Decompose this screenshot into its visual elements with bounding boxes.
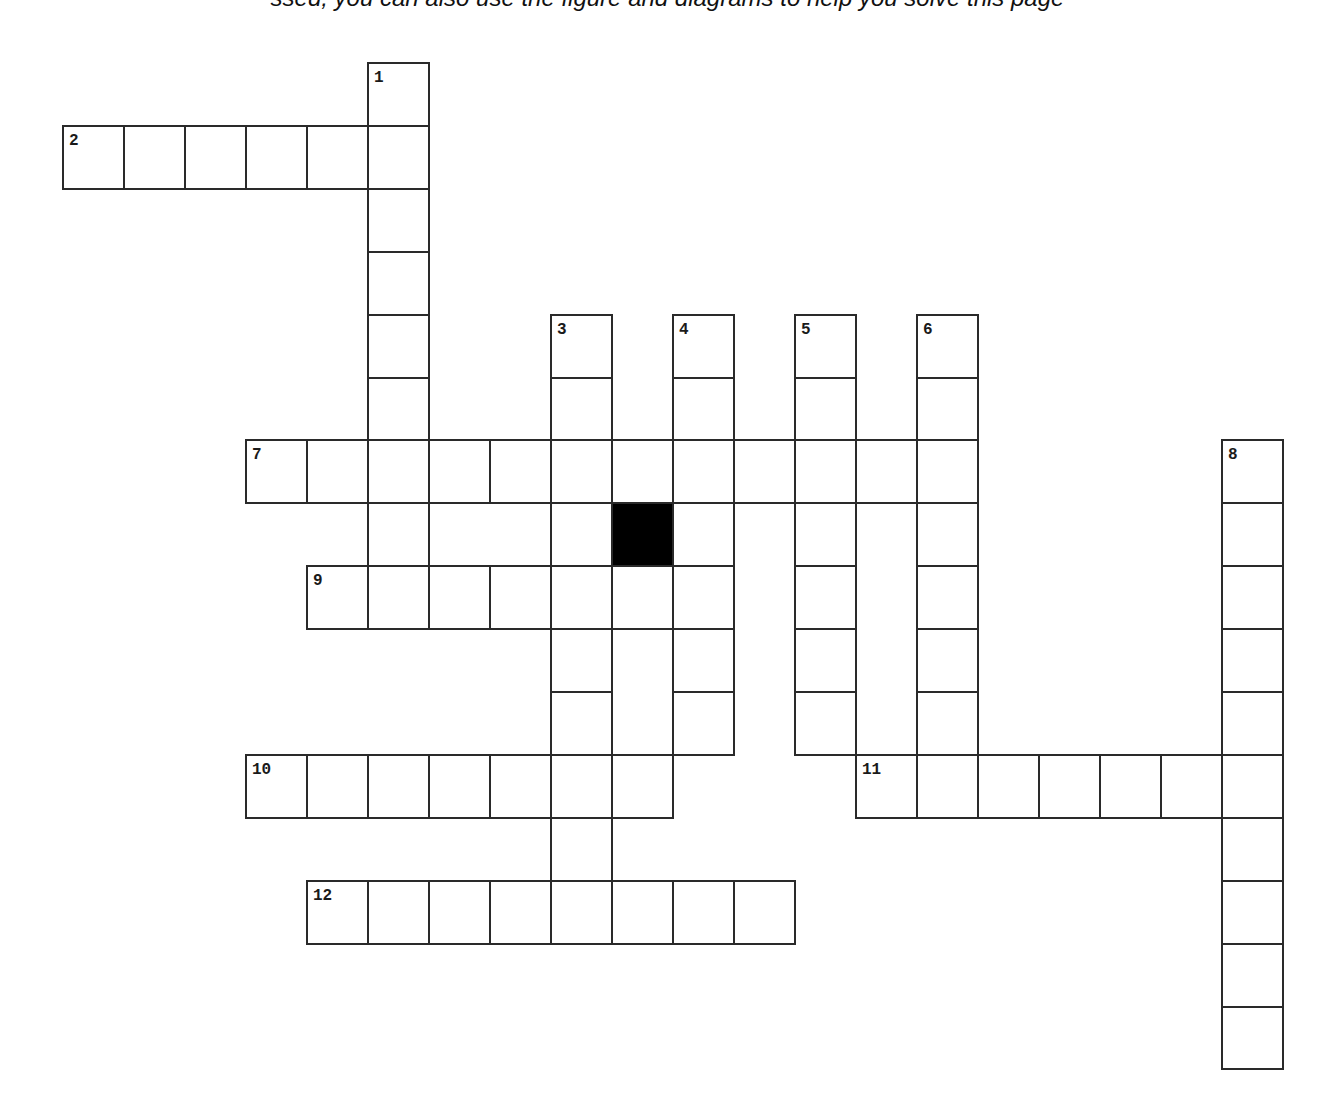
crossword-cell[interactable] bbox=[1221, 691, 1284, 756]
crossword-cell[interactable] bbox=[672, 502, 735, 567]
crossword-cell[interactable] bbox=[1221, 1006, 1284, 1070]
crossword-cell[interactable]: 8 bbox=[1221, 439, 1284, 504]
crossword-cell[interactable]: 9 bbox=[306, 565, 369, 630]
crossword-cell[interactable] bbox=[672, 628, 735, 693]
crossword-cell[interactable] bbox=[611, 880, 674, 945]
crossword-cell[interactable] bbox=[367, 377, 430, 441]
crossword-cell[interactable] bbox=[123, 125, 186, 190]
crossword-cell[interactable] bbox=[367, 439, 430, 504]
clue-number: 1 bbox=[374, 70, 384, 86]
crossword-cell[interactable] bbox=[916, 377, 979, 441]
crossword-cell[interactable] bbox=[794, 565, 857, 630]
crossword-cell[interactable] bbox=[550, 377, 613, 441]
crossword-cell[interactable] bbox=[1221, 502, 1284, 567]
crossword-cell[interactable] bbox=[428, 880, 491, 945]
crossword-cell[interactable]: 11 bbox=[855, 754, 918, 819]
crossword-cell[interactable]: 7 bbox=[245, 439, 308, 504]
crossword-cell[interactable] bbox=[550, 502, 613, 567]
clue-number: 3 bbox=[557, 322, 567, 338]
crossword-cell[interactable] bbox=[489, 754, 552, 819]
crossword-cell[interactable] bbox=[672, 439, 735, 504]
crossword-cell[interactable] bbox=[1221, 628, 1284, 693]
crossword-grid: 123456789101112 bbox=[0, 0, 1335, 1117]
crossword-cell[interactable] bbox=[916, 691, 979, 756]
crossword-cell[interactable] bbox=[428, 565, 491, 630]
clue-number: 8 bbox=[1228, 447, 1238, 463]
crossword-cell[interactable] bbox=[428, 754, 491, 819]
clue-number: 6 bbox=[923, 322, 933, 338]
crossword-cell[interactable] bbox=[306, 754, 369, 819]
crossword-cell[interactable] bbox=[1221, 943, 1284, 1008]
crossword-cell[interactable] bbox=[367, 565, 430, 630]
crossword-cell[interactable] bbox=[916, 565, 979, 630]
crossword-cell[interactable] bbox=[611, 565, 674, 630]
crossword-cell[interactable] bbox=[489, 439, 552, 504]
crossword-cell[interactable] bbox=[611, 439, 674, 504]
crossword-cell[interactable] bbox=[794, 691, 857, 756]
crossword-cell[interactable] bbox=[916, 439, 979, 504]
crossword-cell[interactable] bbox=[550, 628, 613, 693]
clue-number: 5 bbox=[801, 322, 811, 338]
crossword-cell[interactable] bbox=[733, 439, 796, 504]
crossword-cell[interactable] bbox=[611, 754, 674, 819]
crossword-cell[interactable] bbox=[672, 880, 735, 945]
crossword-cell[interactable] bbox=[672, 691, 735, 756]
crossword-cell[interactable] bbox=[367, 251, 430, 316]
crossword-cell[interactable] bbox=[550, 754, 613, 819]
crossword-cell[interactable]: 2 bbox=[62, 125, 125, 190]
clue-number: 4 bbox=[679, 322, 689, 338]
clue-number: 7 bbox=[252, 447, 262, 463]
crossword-cell[interactable] bbox=[1160, 754, 1223, 819]
crossword-cell[interactable] bbox=[794, 439, 857, 504]
crossword-cell[interactable] bbox=[794, 628, 857, 693]
crossword-cell[interactable]: 10 bbox=[245, 754, 308, 819]
crossword-cell[interactable] bbox=[794, 502, 857, 567]
crossword-cell[interactable]: 4 bbox=[672, 314, 735, 379]
crossword-cell[interactable] bbox=[550, 817, 613, 882]
crossword-cell[interactable] bbox=[367, 188, 430, 253]
crossword-cell[interactable] bbox=[672, 377, 735, 441]
crossword-cell[interactable] bbox=[855, 439, 918, 504]
crossword-cell[interactable] bbox=[1221, 754, 1284, 819]
crossword-cell[interactable] bbox=[489, 880, 552, 945]
crossword-cell[interactable] bbox=[367, 502, 430, 567]
crossword-cell[interactable] bbox=[1099, 754, 1162, 819]
clue-number: 2 bbox=[69, 133, 79, 149]
crossword-cell[interactable] bbox=[1221, 565, 1284, 630]
clue-number: 10 bbox=[252, 762, 271, 778]
crossword-cell[interactable]: 5 bbox=[794, 314, 857, 379]
crossword-cell[interactable]: 6 bbox=[916, 314, 979, 379]
crossword-cell[interactable] bbox=[367, 314, 430, 379]
black-cell bbox=[611, 502, 674, 567]
crossword-cell[interactable]: 3 bbox=[550, 314, 613, 379]
crossword-cell[interactable] bbox=[428, 439, 491, 504]
crossword-cell[interactable]: 1 bbox=[367, 62, 430, 127]
crossword-cell[interactable] bbox=[550, 565, 613, 630]
crossword-cell[interactable] bbox=[245, 125, 308, 190]
crossword-cell[interactable] bbox=[977, 754, 1040, 819]
crossword-cell[interactable] bbox=[733, 880, 796, 945]
crossword-cell[interactable] bbox=[550, 439, 613, 504]
crossword-cell[interactable] bbox=[672, 565, 735, 630]
crossword-cell[interactable] bbox=[1038, 754, 1101, 819]
crossword-cell[interactable] bbox=[916, 754, 979, 819]
crossword-cell[interactable] bbox=[367, 880, 430, 945]
crossword-cell[interactable] bbox=[916, 628, 979, 693]
crossword-cell[interactable] bbox=[550, 880, 613, 945]
crossword-cell[interactable] bbox=[367, 754, 430, 819]
crossword-cell[interactable] bbox=[794, 377, 857, 441]
crossword-cell[interactable] bbox=[550, 691, 613, 756]
crossword-cell[interactable] bbox=[1221, 817, 1284, 882]
crossword-cell[interactable] bbox=[489, 565, 552, 630]
crossword-cell[interactable] bbox=[306, 125, 369, 190]
crossword-cell[interactable] bbox=[367, 125, 430, 190]
crossword-cell[interactable] bbox=[184, 125, 247, 190]
clue-number: 11 bbox=[862, 762, 881, 778]
clue-number: 12 bbox=[313, 888, 332, 904]
clue-number: 9 bbox=[313, 573, 323, 589]
crossword-cell[interactable] bbox=[306, 439, 369, 504]
crossword-cell[interactable]: 12 bbox=[306, 880, 369, 945]
crossword-cell[interactable] bbox=[1221, 880, 1284, 945]
crossword-cell[interactable] bbox=[916, 502, 979, 567]
